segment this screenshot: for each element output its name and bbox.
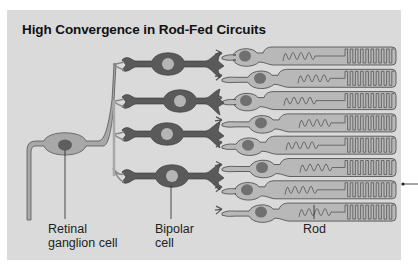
ganglion-group — [27, 62, 124, 220]
rod-nucleus — [239, 51, 251, 62]
rod-nucleus — [255, 207, 267, 218]
label-retinal-ganglion-cell: Retinal ganglion cell — [48, 222, 118, 250]
label-rod: Rod — [303, 222, 326, 236]
rod-cell — [215, 181, 396, 200]
bipolar-body — [122, 89, 224, 115]
rod-cell — [215, 69, 396, 88]
rod-cell — [215, 136, 396, 155]
label-line: cell — [155, 236, 194, 250]
label-line: ganglion cell — [48, 236, 118, 250]
ganglion-body — [27, 64, 116, 220]
label-bipolar-cell: Bipolar cell — [155, 222, 194, 250]
bipolar-body — [122, 122, 224, 148]
rod-cell — [215, 114, 396, 133]
rod-cell — [215, 159, 396, 178]
rod-nucleus — [240, 95, 252, 106]
rod-nucleus — [241, 184, 253, 195]
bipolar-cell — [122, 52, 224, 78]
rod-cell — [215, 92, 396, 111]
bipolar-nucleus — [174, 95, 186, 107]
rod-nucleus — [256, 162, 268, 173]
ganglion-nucleus — [58, 140, 72, 151]
bipolar-nucleus — [162, 58, 174, 70]
bipolar-cell — [122, 122, 224, 148]
rod-cell — [215, 47, 396, 66]
label-line: Retinal — [48, 222, 118, 236]
rod-synaptic-terminal — [215, 206, 222, 214]
label-line: Bipolar — [155, 222, 194, 236]
rod-nucleus — [254, 73, 266, 84]
bipolar-nucleus — [161, 128, 173, 140]
bipolar-cell — [122, 164, 224, 190]
bipolar-cell — [122, 89, 224, 115]
bipolar-nucleus — [166, 170, 178, 182]
rod-nucleus — [242, 140, 254, 151]
leader-dot — [401, 182, 404, 185]
rod-group — [215, 47, 396, 222]
rod-nucleus — [255, 117, 267, 128]
rod-cell — [215, 203, 396, 222]
bipolar-group — [122, 52, 224, 190]
